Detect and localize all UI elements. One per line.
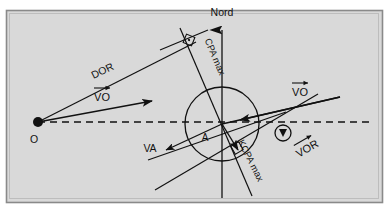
vo-left-label-group: VO — [94, 86, 110, 103]
vo-right-label: VO — [292, 86, 308, 98]
north-label: Nord — [211, 6, 234, 18]
point-o-marker — [33, 117, 43, 127]
point-o-label: O — [30, 133, 38, 145]
vo-right-label-group: VO — [292, 81, 308, 98]
point-a-label: A — [202, 132, 209, 143]
va-label: VA — [143, 142, 156, 154]
figure-root: Nord O A DOR CPA max KCPA max VO VO VOR … — [0, 0, 389, 215]
vo-left-label: VO — [94, 91, 110, 103]
cpa-vector-diagram: Nord O A DOR CPA max KCPA max VO VO VOR … — [0, 0, 389, 215]
